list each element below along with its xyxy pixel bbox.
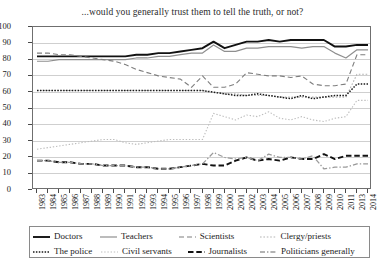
x-axis-tick-mark [213, 189, 214, 193]
y-axis-tick-mark [28, 75, 32, 76]
legend-label: Doctors [54, 232, 83, 241]
x-axis-tick-label: 1996 [183, 194, 191, 210]
legend-label: The police [54, 247, 92, 256]
x-axis-tick-mark [179, 189, 180, 193]
x-axis-tick-label: 2001 [238, 194, 246, 210]
chart-legend: DoctorsTeachersScientistsClergy/priests … [29, 226, 370, 258]
x-axis-tick-label: 1987 [83, 194, 91, 210]
x-axis-tick-label: 1988 [94, 194, 102, 210]
series-line [37, 74, 368, 97]
series-line [37, 84, 368, 99]
y-axis-tick-label: 90 [0, 38, 11, 47]
x-axis-tick-mark [323, 189, 324, 193]
x-axis-tick-mark [345, 189, 346, 193]
legend-swatch-icon [101, 247, 118, 257]
y-axis-tick-mark [28, 173, 32, 174]
x-axis-tick-label: 2014 [370, 194, 378, 210]
y-axis-tick-label: 0 [0, 185, 11, 194]
legend-swatch-icon [188, 247, 205, 257]
legend-item[interactable]: Politicians generally [260, 244, 366, 259]
y-axis-tick-label: 70 [0, 70, 11, 79]
x-axis-tick-label: 1990 [116, 194, 124, 210]
x-axis-tick-label: 1997 [194, 194, 202, 210]
x-axis-tick-mark [367, 189, 368, 193]
x-axis-tick-label: 1993 [150, 194, 158, 210]
x-axis-tick-label: 2010 [337, 194, 345, 210]
x-axis-tick-mark [91, 189, 92, 193]
x-axis-tick-label: 2000 [227, 194, 235, 210]
legend-item[interactable]: Scientists [179, 229, 260, 244]
y-axis-tick-mark [28, 124, 32, 125]
legend-label: Clergy/priests [281, 232, 331, 241]
x-axis-tick-label: 2003 [260, 194, 268, 210]
x-axis-tick-label: 1989 [105, 194, 113, 210]
legend-label: Teachers [121, 232, 153, 241]
x-axis-tick-mark [334, 189, 335, 193]
legend-swatch-icon [260, 232, 277, 242]
series-line [37, 153, 368, 169]
y-axis-tick-label: 60 [0, 87, 11, 96]
x-axis-tick-mark [135, 189, 136, 193]
y-axis-tick-mark [28, 108, 32, 109]
x-axis-tick-mark [124, 189, 125, 193]
x-axis-tick-label: 2013 [359, 194, 367, 210]
x-axis-tick-mark [224, 189, 225, 193]
legend-item[interactable]: Civil servants [101, 244, 188, 259]
series-line [37, 100, 368, 149]
x-axis-tick-label: 1984 [50, 194, 58, 210]
legend-label: Scientists [200, 232, 235, 241]
series-line [37, 40, 368, 56]
x-axis-tick-mark [235, 189, 236, 193]
y-axis-tick-label: 80 [0, 54, 11, 63]
x-axis-tick-mark [80, 189, 81, 193]
y-axis-tick-label: 100 [0, 22, 11, 31]
x-axis-tick-mark [301, 189, 302, 193]
x-axis-tick-label: 2007 [304, 194, 312, 210]
legend-label: Civil servants [122, 247, 172, 256]
x-axis-tick-mark [113, 189, 114, 193]
x-axis-tick-mark [146, 189, 147, 193]
legend-row: The policeCivil servantsJournalistsPolit… [33, 244, 366, 259]
series-lines [33, 27, 371, 189]
x-axis-tick-mark [257, 189, 258, 193]
x-axis-tick-label: 1991 [127, 194, 135, 210]
x-axis-tick-label: 1985 [61, 194, 69, 210]
x-axis-tick-label: 2008 [315, 194, 323, 210]
x-axis-tick-mark [268, 189, 269, 193]
x-axis-tick-mark [157, 189, 158, 193]
legend-item[interactable]: Teachers [100, 229, 179, 244]
y-axis-tick-mark [28, 140, 32, 141]
x-axis-tick-label: 1999 [216, 194, 224, 210]
x-axis-tick-mark [36, 189, 37, 193]
legend-swatch-icon [33, 232, 50, 242]
plot-area [32, 26, 371, 189]
x-axis-labels: 1983198419851986198719881989199019911992… [32, 194, 371, 228]
x-axis-tick-mark [246, 189, 247, 193]
x-axis-tick-label: 2002 [249, 194, 257, 210]
legend-row: DoctorsTeachersScientistsClergy/priests [33, 229, 366, 244]
x-axis-tick-mark [168, 189, 169, 193]
y-axis-tick-mark [28, 42, 32, 43]
legend-item[interactable]: Clergy/priests [260, 229, 366, 244]
x-axis-tick-mark [290, 189, 291, 193]
legend-swatch-icon [33, 247, 50, 257]
x-axis-tick-label: 1983 [39, 194, 47, 210]
legend-item[interactable]: Doctors [33, 229, 100, 244]
legend-item[interactable]: The police [33, 244, 101, 259]
x-axis-tick-label: 2011 [348, 194, 356, 210]
legend-swatch-icon [100, 232, 117, 242]
legend-swatch-icon [179, 232, 196, 242]
y-axis-tick-mark [28, 59, 32, 60]
y-axis-tick-label: 30 [0, 136, 11, 145]
x-axis-tick-mark [190, 189, 191, 193]
y-axis-tick-label: 50 [0, 103, 11, 112]
x-axis-tick-label: 2005 [282, 194, 290, 210]
y-axis-tick-label: 40 [0, 119, 11, 128]
y-axis-tick-label: 20 [0, 152, 11, 161]
legend-swatch-icon [260, 247, 277, 257]
x-axis-tick-mark [312, 189, 313, 193]
legend-item[interactable]: Journalists [188, 244, 260, 259]
x-axis-tick-mark [102, 189, 103, 193]
y-axis-tick-mark [28, 189, 32, 190]
x-axis-tick-label: 2006 [293, 194, 301, 210]
